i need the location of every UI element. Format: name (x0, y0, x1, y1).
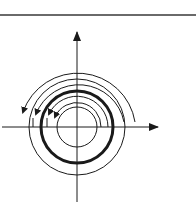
outer-spiral-arc-2 (23, 73, 135, 122)
phase-portrait-diagram (0, 0, 196, 203)
inner-spiral-arc-1 (55, 103, 101, 127)
